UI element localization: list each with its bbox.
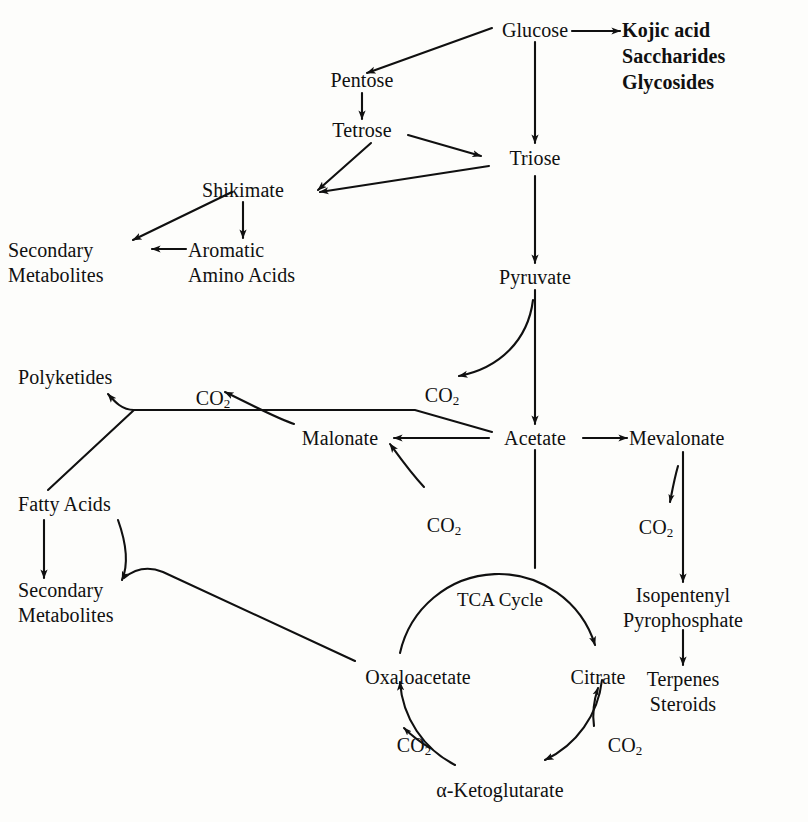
node-polyketides: Polyketides [18, 365, 112, 390]
co2-subscript: 2 [636, 743, 643, 758]
co2-subscript: 2 [667, 525, 674, 540]
pathway-diagram: Glucose Kojic acid Saccharides Glycoside… [0, 0, 808, 822]
co2-malonate-release: CO2 [176, 365, 230, 434]
co2-subscript: 2 [425, 743, 432, 758]
node-citrate: Citrate [570, 665, 625, 690]
node-aromatic-amino-acids: Aromatic Amino Acids [188, 238, 295, 288]
edge-pyruvate-co2 [459, 300, 533, 376]
edge-fattyacids-secondary-c [118, 520, 126, 580]
co2-subscript: 2 [453, 393, 460, 408]
node-malonate: Malonate [302, 426, 378, 451]
node-isopentenyl-pyrophosphate: Isopentenyl Pyrophosphate [623, 583, 743, 633]
edge-glucose-pentose [367, 28, 492, 73]
co2-pyruvate-release: CO2 [405, 362, 459, 431]
node-glycosides: Glycosides [622, 70, 714, 95]
co2-subscript: 2 [455, 523, 462, 538]
node-secondary-metabolites-bottom: Secondary Metabolites [18, 578, 114, 628]
co2-subscript: 2 [224, 396, 231, 411]
co2-malonate-input: CO2 [407, 492, 461, 561]
node-acetate: Acetate [504, 426, 566, 451]
node-kojic-acid: Kojic acid [622, 18, 710, 43]
co2-citrate-release: CO2 [588, 712, 642, 781]
co2-text: CO [397, 734, 425, 756]
node-secondary-metabolites-top: Secondary Metabolites [8, 238, 104, 288]
edge-triose-shikimate [320, 166, 489, 192]
edge-co2-malonate [390, 444, 424, 487]
node-tetrose: Tetrose [332, 118, 391, 143]
node-alpha-ketoglutarate: α-Ketoglutarate [436, 778, 563, 803]
node-pentose: Pentose [331, 68, 394, 93]
co2-text: CO [639, 516, 667, 538]
edge-fattyacids-polyketides [48, 410, 134, 490]
node-glucose: Glucose [502, 18, 568, 43]
node-pyruvate: Pyruvate [499, 265, 571, 290]
edge-malonate-co2 [225, 392, 294, 424]
co2-text: CO [425, 384, 453, 406]
co2-text: CO [427, 514, 455, 536]
edge-oxaloacetate-citrate [400, 574, 595, 653]
co2-text: CO [196, 387, 224, 409]
node-oxaloacetate: Oxaloacetate [365, 665, 471, 690]
edge-oxaloacetate-secondary [124, 569, 355, 661]
node-saccharides: Saccharides [622, 44, 725, 69]
co2-mevalonate-release: CO2 [619, 494, 673, 563]
tca-cycle-label: TCA Cycle [457, 589, 543, 611]
node-shikimate: Shikimate [202, 178, 284, 203]
node-mevalonate: Mevalonate [629, 426, 724, 451]
co2-oxaloacetate-release: CO2 [377, 712, 431, 781]
edge-tetrose-triose [408, 135, 481, 156]
node-triose: Triose [510, 146, 561, 171]
node-fatty-acids: Fatty Acids [18, 492, 111, 517]
edge-tetrose-shikimate [318, 143, 371, 190]
co2-text: CO [608, 734, 636, 756]
node-terpenes-steroids: Terpenes Steroids [647, 667, 720, 717]
